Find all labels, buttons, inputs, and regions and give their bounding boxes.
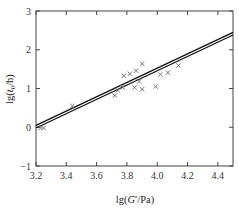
x-marker xyxy=(113,93,117,97)
x-marker xyxy=(122,74,126,78)
y-axis-label: lg(t0/h) xyxy=(4,74,17,104)
y-axis-ticks: −10123 xyxy=(20,6,233,172)
y-tick-label: 0 xyxy=(26,122,31,133)
y-tick-label: 3 xyxy=(26,6,31,17)
regression-lines xyxy=(36,32,233,128)
x-tick-label: 4.4 xyxy=(212,170,225,181)
x-tick-label: 3.4 xyxy=(60,170,73,181)
x-marker xyxy=(154,84,158,88)
x-tick-label: 3.6 xyxy=(90,170,103,181)
x-axis-label: lg(G′/Pa) xyxy=(116,194,155,206)
x-tick-label: 4.2 xyxy=(181,170,194,181)
x-marker xyxy=(128,72,132,76)
plot-frame xyxy=(36,11,233,166)
data-markers xyxy=(38,62,180,131)
plot-border xyxy=(36,11,233,166)
y-tick-label: 2 xyxy=(26,44,31,55)
x-tick-label: 3.2 xyxy=(30,170,43,181)
x-tick-label: 4.0 xyxy=(151,170,164,181)
x-marker xyxy=(158,72,162,76)
x-marker xyxy=(41,126,45,130)
x-axis-ticks: 3.23.43.63.84.04.24.4 xyxy=(30,11,224,181)
chart: 3.23.43.63.84.04.24.4 −10123 lg(G′/Pa) l… xyxy=(0,0,239,211)
x-marker xyxy=(132,85,136,89)
fit-lower-line xyxy=(36,35,233,128)
fit-upper-line xyxy=(36,32,233,125)
x-tick-label: 3.8 xyxy=(121,170,134,181)
x-marker xyxy=(134,68,138,72)
x-marker xyxy=(140,87,144,91)
x-marker xyxy=(176,63,180,67)
y-tick-label: 1 xyxy=(26,83,31,94)
y-tick-label: −1 xyxy=(20,161,31,172)
x-marker xyxy=(166,70,170,74)
x-marker xyxy=(140,62,144,66)
